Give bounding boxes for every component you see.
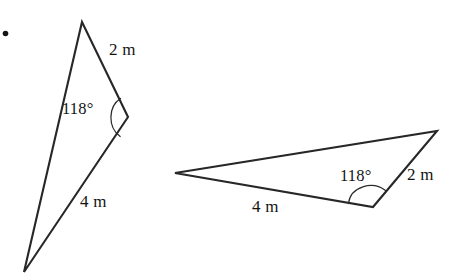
bullet-point-icon bbox=[3, 31, 9, 37]
right-triangle-angle-label: 118° bbox=[340, 168, 372, 185]
right-triangle-angle-arc bbox=[349, 186, 386, 204]
triangles-canvas bbox=[0, 0, 452, 276]
left-triangle-outline bbox=[24, 22, 128, 272]
right-triangle-outline bbox=[175, 131, 437, 207]
left-triangle-short-side-label: 2 m bbox=[109, 41, 136, 58]
right-triangle-short-side-label: 2 m bbox=[407, 166, 434, 183]
left-triangle-long-side-label: 4 m bbox=[80, 193, 107, 210]
geometry-figure: 118° 2 m 4 m 118° 2 m 4 m bbox=[0, 0, 452, 276]
left-triangle-angle-label: 118° bbox=[62, 101, 94, 118]
right-triangle-long-side-label: 4 m bbox=[252, 198, 279, 215]
